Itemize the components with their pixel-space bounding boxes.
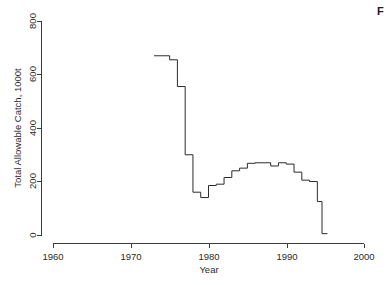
y-tick-label-400: 400 [27,120,38,136]
x-axis-title: Year [199,264,218,275]
x-axis-tick-labels: 1960 1970 1980 1990 2000 [42,251,374,262]
x-axis-ticks [54,244,365,249]
y-axis-tick-labels: 800 600 400 200 0 [27,13,38,238]
chart-figure: 800 600 400 200 0 Total Allowable Catch,… [0,0,386,285]
y-tick-label-800: 800 [27,13,38,29]
data-series-total-allowable-catch [154,56,327,234]
y-tick-label-600: 600 [27,66,38,82]
x-tick-label-1960: 1960 [42,251,63,262]
y-axis-title: Total Allowable Catch, 1000t [12,68,23,188]
figure-caption-fragment: F [377,5,385,17]
y-axis-ticks [37,22,42,236]
chart-plot-area: 800 600 400 200 0 Total Allowable Catch,… [0,0,386,285]
x-tick-label-1970: 1970 [120,251,141,262]
y-tick-label-200: 200 [27,173,38,189]
x-tick-label-2000: 2000 [353,251,374,262]
x-tick-label-1990: 1990 [276,251,297,262]
x-tick-label-1980: 1980 [198,251,219,262]
y-tick-label-0: 0 [27,232,38,237]
